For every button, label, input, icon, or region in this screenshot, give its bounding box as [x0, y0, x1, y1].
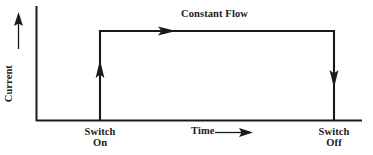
x-axis-label: Time — [191, 125, 215, 136]
switch-on-label-line1: Switch — [85, 126, 116, 137]
switch-off-label: Switch Off — [307, 126, 361, 149]
y-axis-label: Current — [3, 58, 14, 110]
switch-on-label: Switch On — [73, 126, 127, 149]
switch-off-label-line1: Switch — [319, 126, 350, 137]
switch-on-label-line2: On — [73, 137, 127, 148]
constant-flow-label: Constant Flow — [181, 8, 248, 19]
figure-container: Constant Flow Time Current Switch On Swi… — [0, 0, 373, 155]
switch-off-label-line2: Off — [307, 137, 361, 148]
